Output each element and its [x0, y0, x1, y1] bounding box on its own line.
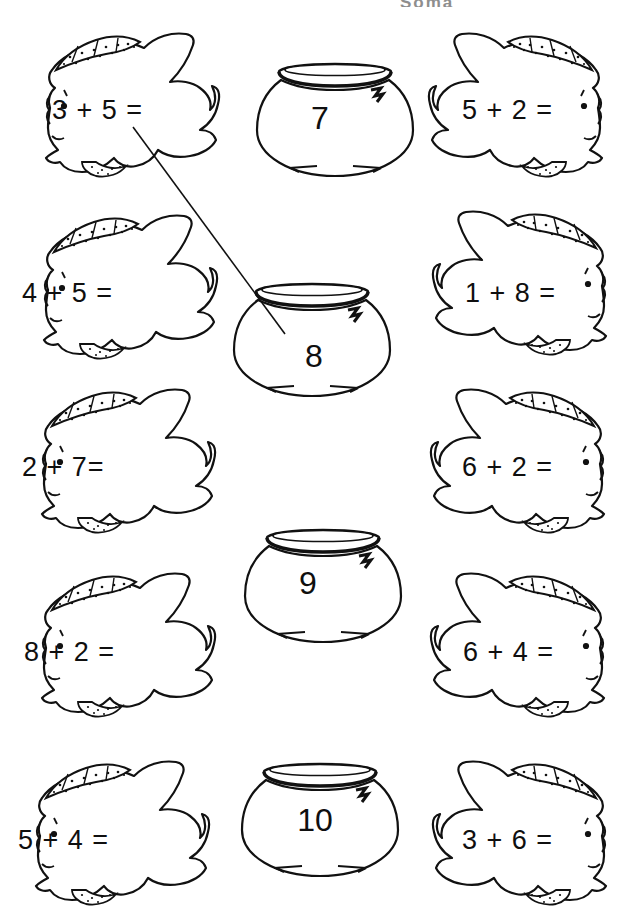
- bowl-number-row5: 10: [292, 802, 338, 839]
- equation-row3-left: 2 + 7=: [22, 452, 105, 483]
- equation-row1-right: 5 + 2 =: [462, 95, 553, 126]
- equation-row5-left: 5 + 4 =: [18, 825, 109, 856]
- equation-row2-right: 1 + 8 =: [465, 278, 556, 309]
- equation-row4-left: 8 + 2 =: [24, 637, 115, 668]
- equation-row3-right: 6 + 2 =: [462, 452, 553, 483]
- bowl-number-row1: 7: [300, 100, 340, 137]
- equation-row1-left: 3 + 5 =: [52, 95, 143, 126]
- equation-row5-right: 3 + 6 =: [462, 825, 553, 856]
- bowl-number-row2: 8: [294, 338, 334, 375]
- equation-row4-right: 6 + 4 =: [463, 637, 554, 668]
- bowl-number-row4: 9: [288, 565, 328, 602]
- worksheet-page: Soma: [0, 0, 637, 911]
- equation-row2-left: 4 + 5 =: [22, 278, 113, 309]
